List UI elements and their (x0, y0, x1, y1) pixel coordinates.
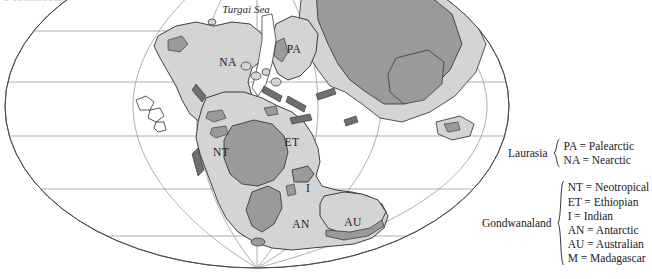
legend-group-laurasia: Laurasia PA = Palearctic NA = Nearctic (508, 138, 634, 168)
map-graphic (0, 0, 520, 279)
brace-gondwanaland (556, 180, 565, 266)
southern-islands (251, 238, 265, 246)
legend-entry-m: M = Madagascar (568, 251, 650, 265)
paleogeographic-map: Turgai Sea NA PA NT ET I AN AU (0, 0, 520, 279)
legend-entry-an: AN = Antarctic (568, 223, 650, 237)
legend-entries-gondwanaland: NT = Neotropical ET = Ethiopian I = Indi… (565, 180, 650, 265)
legend-group-label-gondwanaland: Gondwanaland (482, 217, 556, 229)
legend-entry-na: NA = Nearctic (564, 153, 635, 167)
legend-entry-pa: PA = Palearctic (564, 139, 635, 153)
legend-group-gondwanaland: Gondwanaland NT = Neotropical ET = Ethio… (482, 180, 649, 266)
legend-entry-nt: NT = Neotropical (568, 180, 650, 194)
legend-entry-et: ET = Ethiopian (568, 195, 650, 209)
legend: Laurasia PA = Palearctic NA = Nearctic G… (470, 130, 652, 279)
highland-madagascar (286, 184, 296, 196)
legend-entries-laurasia: PA = Palearctic NA = Nearctic (561, 139, 635, 167)
figure-page: a continuous land connection between the… (0, 0, 652, 279)
legend-group-label-laurasia: Laurasia (508, 147, 552, 159)
map-label-turgai-sea: Turgai Sea (222, 3, 270, 15)
legend-entry-i: I = Indian (568, 209, 650, 223)
legend-entry-au: AU = Australian (568, 237, 650, 251)
brace-laurasia (552, 138, 561, 168)
